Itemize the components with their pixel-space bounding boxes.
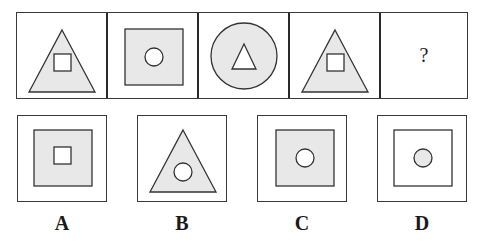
circle-with-triangle-icon xyxy=(199,13,289,97)
square-with-circle-icon xyxy=(108,13,198,97)
option-a-label[interactable]: A xyxy=(17,212,107,235)
sequence-row: ? xyxy=(16,12,468,99)
triangle-with-square-icon xyxy=(290,13,380,97)
option-b-figure[interactable] xyxy=(137,115,227,202)
sequence-cell-unknown: ? xyxy=(381,13,467,98)
sequence-cell-4 xyxy=(290,13,380,98)
square-with-circle-icon xyxy=(258,116,346,201)
square-with-shaded-circle-icon xyxy=(378,116,466,201)
option-d-label[interactable]: D xyxy=(377,212,467,235)
option-d-figure[interactable] xyxy=(377,115,467,202)
question-mark: ? xyxy=(381,13,467,98)
sequence-cell-2 xyxy=(108,13,198,98)
square-with-square-icon xyxy=(18,116,106,201)
option-a-figure[interactable] xyxy=(17,115,107,202)
option-b-label[interactable]: B xyxy=(137,212,227,235)
triangle-with-square-icon xyxy=(17,13,107,97)
option-c-label[interactable]: C xyxy=(257,212,347,235)
triangle-with-circle-icon xyxy=(138,116,226,201)
sequence-cell-1 xyxy=(17,13,107,98)
option-c-figure[interactable] xyxy=(257,115,347,202)
sequence-cell-3 xyxy=(199,13,289,98)
